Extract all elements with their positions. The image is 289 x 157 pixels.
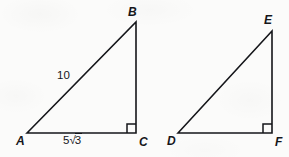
right-angle-mark-f xyxy=(263,124,272,133)
vertex-label-a: A xyxy=(16,135,25,147)
radical-group: √3 xyxy=(69,135,82,147)
vertex-label-d: D xyxy=(167,135,176,147)
side-label-hypotenuse-ab: 10 xyxy=(57,70,70,82)
triangle-abc-outline xyxy=(27,22,136,133)
triangle-def xyxy=(178,31,272,133)
radicand: 3 xyxy=(75,133,82,146)
triangle-abc xyxy=(27,22,136,133)
triangles-svg xyxy=(0,0,289,157)
vertex-label-c: C xyxy=(139,136,148,148)
vertex-label-b: B xyxy=(128,6,137,18)
geometry-figure: A B C D E F 10 5√3 xyxy=(0,0,289,157)
side-label-base-ac: 5√3 xyxy=(63,135,82,147)
vertex-label-f: F xyxy=(275,136,282,148)
right-angle-mark-c xyxy=(127,124,136,133)
vertex-label-e: E xyxy=(264,14,272,26)
triangle-def-outline xyxy=(178,31,272,133)
